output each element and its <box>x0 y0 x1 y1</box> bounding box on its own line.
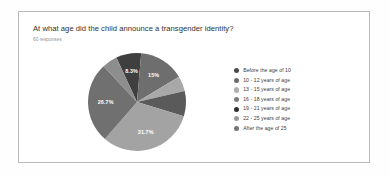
card-content: At what age did the child announce a tra… <box>19 12 369 162</box>
pie-slice-label: 8.3% <box>125 68 138 74</box>
legend-swatch-icon <box>234 126 239 131</box>
legend-swatch-icon <box>234 78 239 83</box>
survey-result-card: At what age did the child announce a tra… <box>18 11 370 163</box>
legend-item[interactable]: Before the age of 10 <box>234 66 364 76</box>
legend-item[interactable]: 16 - 18 years of age <box>234 95 364 105</box>
chart-area: 8.3%15%31.7%26.7% Before the age of 1010… <box>19 50 371 160</box>
legend-item[interactable]: 22 - 25 years of age <box>234 114 364 124</box>
pie-slice-label: 31.7% <box>138 129 154 135</box>
legend-swatch-icon <box>234 97 239 102</box>
legend-item[interactable]: After the age of 25 <box>234 124 364 134</box>
legend-item[interactable]: 19 - 21 years of age <box>234 104 364 114</box>
response-count: 60 responses <box>33 36 355 43</box>
page-root: At what age did the child announce a tra… <box>0 0 389 177</box>
legend-swatch-icon <box>234 116 239 121</box>
legend-item[interactable]: 13 - 15 years of age <box>234 85 364 95</box>
pie-chart: 8.3%15%31.7%26.7% <box>87 52 187 152</box>
legend-swatch-icon <box>234 107 239 112</box>
legend-item-label: 22 - 25 years of age <box>243 114 290 124</box>
legend-item[interactable]: 10 - 12 years of age <box>234 76 364 86</box>
legend-item-label: 13 - 15 years of age <box>243 85 290 95</box>
legend-item-label: 16 - 18 years of age <box>243 95 290 105</box>
chart-legend: Before the age of 1010 - 12 years of age… <box>234 66 364 133</box>
legend-item-label: 10 - 12 years of age <box>243 76 290 86</box>
page-title: At what age did the child announce a tra… <box>33 24 355 34</box>
pie-slice-label: 26.7% <box>98 99 114 105</box>
legend-item-label: Before the age of 10 <box>243 66 291 76</box>
pie-chart-svg: 8.3%15%31.7%26.7% <box>87 52 187 152</box>
legend-swatch-icon <box>234 68 239 73</box>
legend-swatch-icon <box>234 87 239 92</box>
pie-slice-label: 15% <box>148 72 159 78</box>
legend-item-label: After the age of 25 <box>243 124 286 134</box>
legend-item-label: 19 - 21 years of age <box>243 104 290 114</box>
